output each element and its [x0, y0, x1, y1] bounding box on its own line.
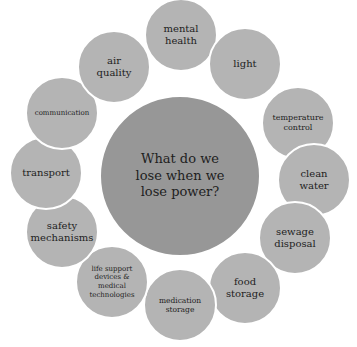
- node-medication-storage: medication storage: [143, 268, 217, 342]
- node-air-quality: air quality: [77, 30, 151, 104]
- node-light: light: [208, 27, 282, 101]
- node-label: sewage disposal: [270, 226, 319, 251]
- node-label: medication storage: [155, 296, 205, 315]
- node-label: air quality: [93, 55, 136, 80]
- node-label: life support devices & medical technolog…: [85, 265, 138, 300]
- center-question: What do we lose when we lose power?: [131, 151, 228, 201]
- node-label: clean water: [295, 168, 332, 193]
- node-label: safety mechanisms: [27, 220, 98, 245]
- node-label: light: [229, 58, 260, 71]
- node-mental-health: mental health: [144, 0, 218, 72]
- node-food-storage: food storage: [208, 251, 282, 325]
- center-node: What do we lose when we lose power?: [99, 95, 261, 257]
- node-label: food storage: [222, 276, 268, 301]
- node-label: communication: [31, 109, 94, 118]
- node-label: temperature control: [269, 113, 328, 133]
- radial-diagram: mental health light temperature control …: [0, 0, 357, 347]
- node-label: transport: [18, 167, 74, 180]
- node-label: mental health: [159, 23, 202, 48]
